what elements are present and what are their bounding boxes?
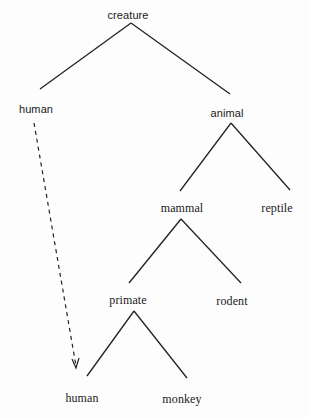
edge-primate-human — [87, 311, 134, 376]
edge-primate-monkey — [134, 311, 187, 378]
taxonomy-diagram: creature human animal mammal reptile pri… — [0, 0, 309, 418]
node-animal: animal — [210, 107, 243, 119]
node-human-bottom: human — [65, 392, 98, 404]
edge-animal-mammal — [180, 123, 231, 191]
node-mammal: mammal — [161, 202, 204, 214]
node-monkey: monkey — [162, 393, 201, 405]
edge-creature-animal — [131, 23, 230, 94]
node-human-top: human — [19, 103, 53, 115]
node-primate: primate — [109, 294, 146, 306]
node-reptile: reptile — [261, 202, 292, 214]
node-rodent: rodent — [216, 295, 247, 307]
edge-animal-reptile — [231, 123, 290, 190]
edge-mammal-primate — [129, 219, 181, 283]
edge-mammal-rodent — [181, 219, 241, 283]
edge-dashed-human-to-human — [34, 123, 76, 366]
node-creature: creature — [107, 9, 148, 21]
edge-creature-human — [40, 23, 131, 89]
